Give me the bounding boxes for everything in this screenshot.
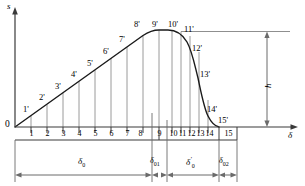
dimension-label-delta-01: δ01 bbox=[150, 157, 160, 167]
cam-displacement-diagram: s δ 0 1' 2' 3' 4' 5' 6' 7' 8' 9' 10' 11'… bbox=[0, 0, 305, 186]
x-tick-label-1: 1 bbox=[27, 130, 36, 138]
curve-point-label-5: 5' bbox=[87, 59, 93, 68]
curve-point-label-2: 2' bbox=[39, 93, 45, 102]
curve-point-label-15: 15' bbox=[218, 116, 228, 125]
displacement-curve bbox=[15, 30, 219, 127]
x-tick-label-14: 14 bbox=[204, 130, 215, 138]
origin-label: 0 bbox=[5, 120, 10, 130]
h-dimension-arrow-top bbox=[264, 32, 269, 39]
delta-01-subscript: 01 bbox=[154, 161, 160, 167]
curve-point-label-10: 10' bbox=[168, 20, 178, 29]
curve-point-label-6: 6' bbox=[103, 47, 109, 56]
x-axis-label: δ bbox=[288, 131, 292, 140]
curve-point-label-4: 4' bbox=[71, 70, 77, 79]
x-tick-label-7: 7 bbox=[123, 130, 132, 138]
h-dimension-arrow-bottom bbox=[264, 121, 269, 128]
curve-point-label-13: 13' bbox=[200, 70, 210, 79]
ordinate-lines bbox=[31, 30, 208, 127]
delta-0-prime-mark: ′ bbox=[190, 155, 192, 163]
y-axis-label: s bbox=[7, 2, 11, 11]
curve-point-label-8: 8' bbox=[134, 20, 140, 29]
curve-point-label-3: 3' bbox=[55, 82, 61, 91]
curve-point-label-7: 7' bbox=[119, 35, 125, 44]
dimension-label-delta-02: δ02 bbox=[219, 157, 229, 167]
x-tick-label-4: 4 bbox=[75, 130, 84, 138]
dimension-extension-lines bbox=[15, 113, 237, 182]
curve-point-label-11: 11' bbox=[184, 25, 194, 34]
x-tick-label-6: 6 bbox=[107, 130, 116, 138]
x-tick-label-8: 8 bbox=[136, 130, 145, 138]
x-tick-label-2: 2 bbox=[43, 130, 52, 138]
delta-02-subscript: 02 bbox=[223, 161, 229, 167]
curve-point-label-14: 14' bbox=[207, 105, 217, 114]
delta-0-subscript: 0 bbox=[82, 162, 85, 168]
dimension-label-delta-0-prime: δ′0 bbox=[186, 156, 195, 169]
curve-point-label-9: 9' bbox=[152, 20, 158, 29]
x-tick-label-3: 3 bbox=[59, 130, 68, 138]
x-tick-label-5: 5 bbox=[91, 130, 100, 138]
height-dimension-label: h bbox=[264, 84, 273, 89]
dimension-label-delta-0: δ0 bbox=[78, 157, 85, 168]
curve-point-label-1: 1' bbox=[23, 105, 29, 114]
delta-0-prime-subscript: 0 bbox=[192, 163, 195, 169]
x-axis-arrowhead bbox=[291, 124, 299, 130]
y-axis-arrowhead bbox=[12, 7, 18, 15]
x-tick-label-9: 9 bbox=[155, 130, 164, 138]
curve-point-label-12: 12' bbox=[192, 44, 202, 53]
x-tick-label-15: 15 bbox=[223, 130, 234, 138]
